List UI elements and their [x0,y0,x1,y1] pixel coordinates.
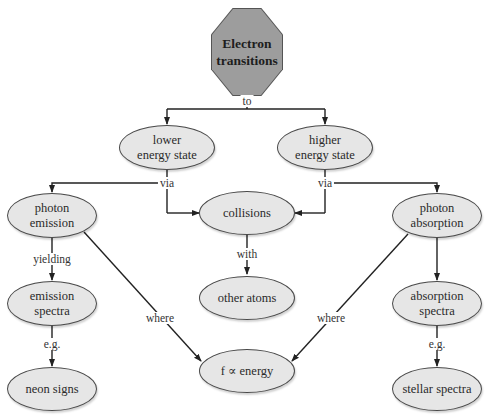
f-proportional-energy-node: f ∝ energy [199,349,295,393]
other-atoms-node: other atoms [199,276,295,320]
node-label: energy state [137,148,197,163]
concept-map: Electron transitions lowerenergy state h… [0,0,490,418]
node-label: higher [295,133,355,148]
edge-label-via-left: via [158,177,176,189]
stellar-spectra-node: stellar spectra [392,367,482,411]
edge-label-with: with [235,248,259,260]
photon-absorption-node: photonabsorption [392,193,482,238]
higher-energy-state-node: higherenergy state [277,125,373,170]
edge-label-yielding: yielding [31,253,73,265]
node-label: absorption [411,216,464,231]
node-label: absorption [411,289,464,304]
edge-label-where-right: where [315,312,347,324]
node-label: emission [30,216,74,231]
neon-signs-node: neon signs [7,367,97,411]
node-label: collisions [223,206,271,221]
node-label: emission [30,289,74,304]
node-label: photon [411,201,464,216]
collisions-node: collisions [199,191,295,235]
node-label: other atoms [218,291,277,306]
node-label: lower [137,133,197,148]
lower-energy-state-node: lowerenergy state [119,125,215,170]
node-label: f ∝ energy [221,364,274,379]
photon-emission-node: photonemission [7,193,97,238]
node-label: energy state [295,148,355,163]
title-line-2: transitions [216,52,278,69]
edge-label-eg-right: e.g. [427,338,448,350]
title-line-1: Electron [216,35,278,52]
node-label: spectra [411,304,464,319]
absorption-spectra-node: absorptionspectra [392,281,482,326]
edge-label-to: to [241,95,254,107]
node-label: stellar spectra [402,382,471,397]
edge-label-via-right: via [316,177,334,189]
edge-label-eg-left: e.g. [42,338,63,350]
node-label: photon [30,201,74,216]
node-label: spectra [30,304,74,319]
node-label: neon signs [25,382,78,397]
electron-transitions-fill: Electron transitions [212,9,282,95]
edge-label-where-left: where [144,312,176,324]
emission-spectra-node: emissionspectra [7,281,97,326]
